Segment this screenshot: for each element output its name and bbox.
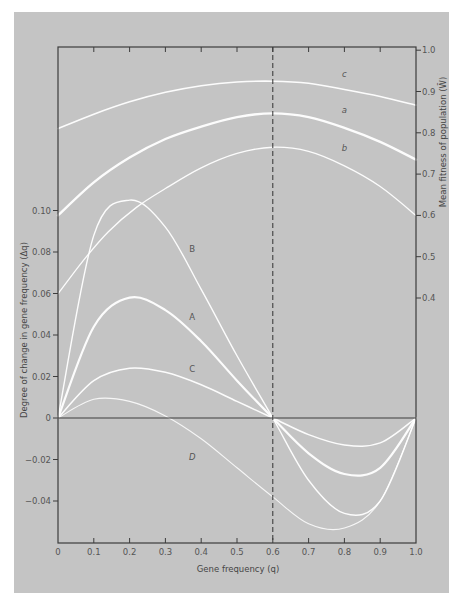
x-tick-label: 0.6	[266, 547, 280, 557]
x-tick-label: 1.0	[409, 547, 423, 557]
x-tick-label: 0.9	[373, 547, 387, 557]
axes-layer: 00.10.20.30.40.50.60.70.80.91.00.100.080…	[25, 45, 436, 557]
y-left-tick-label: −0.02	[25, 455, 51, 465]
x-tick-label: 0.2	[123, 547, 137, 557]
y-right-tick-label: 0.5	[422, 252, 436, 262]
y-left-tick-label: 0.02	[32, 372, 51, 382]
curve-label-B: B	[189, 244, 195, 254]
x-tick-label: 0.1	[87, 547, 101, 557]
y-right-tick-label: 0.4	[422, 293, 436, 303]
chart: 00.10.20.30.40.50.60.70.80.91.00.100.080…	[0, 0, 464, 605]
curve-label-a: a	[342, 105, 347, 115]
x-tick-label: 0.4	[194, 547, 208, 557]
y-right-tick-label: 0.7	[422, 169, 436, 179]
x-axis-title: Gene frequency (q)	[197, 564, 280, 574]
curve-c	[58, 81, 416, 129]
y-right-tick-label: 0.8	[422, 128, 436, 138]
curve-label-D: D	[189, 452, 196, 462]
x-tick-label: 0	[55, 547, 60, 557]
x-tick-label: 0.8	[338, 547, 352, 557]
x-tick-label: 0.7	[302, 547, 316, 557]
curve-label-C: C	[189, 364, 195, 374]
y-left-tick-label: 0.04	[32, 330, 51, 340]
x-tick-label: 0.5	[230, 547, 244, 557]
curve-A	[58, 297, 416, 475]
y-left-tick-label: −0.04	[25, 496, 51, 506]
x-tick-label: 0.3	[159, 547, 173, 557]
curve-label-A: A	[189, 312, 195, 322]
curve-label-c: c	[342, 69, 347, 79]
labels-layer: cabBACD	[189, 69, 347, 461]
curves-layer	[58, 81, 416, 530]
curve-label-b: b	[342, 143, 347, 153]
plot-frame	[58, 47, 416, 543]
y-right-tick-label: 0.6	[422, 210, 436, 220]
y-axis-left-title: Degree of change in gene frequency (Δq)	[19, 242, 29, 418]
y-axis-right-title: Mean fitness of population (W̄)	[437, 77, 448, 208]
y-left-tick-label: 0.08	[32, 247, 51, 257]
y-right-tick-label: 0.9	[422, 87, 436, 97]
curve-a	[58, 113, 416, 215]
y-left-tick-label: 0	[46, 413, 51, 423]
y-left-tick-label: 0.10	[32, 206, 51, 216]
y-right-tick-label: 1.0	[422, 45, 436, 55]
y-left-tick-label: 0.06	[32, 289, 51, 299]
